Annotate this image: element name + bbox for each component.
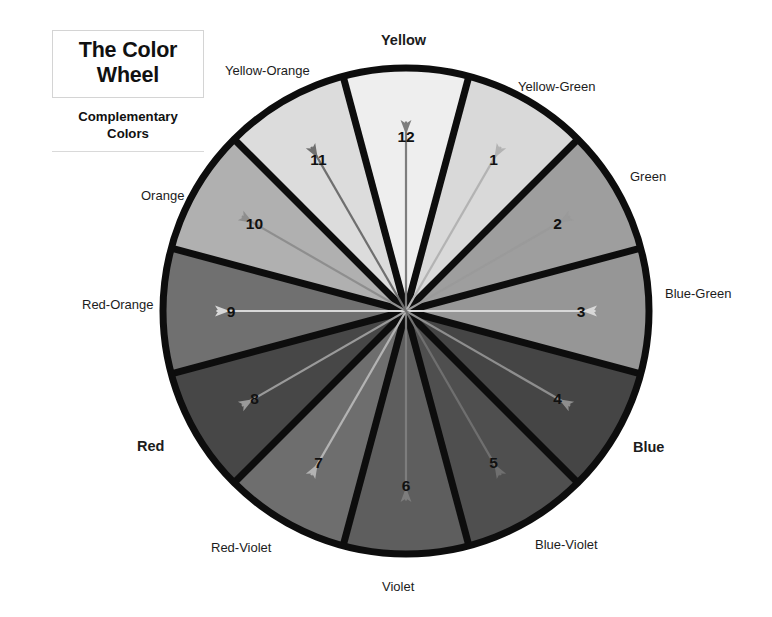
wheel-label-red-violet: Red-Violet xyxy=(211,541,271,554)
segment-number-7: 7 xyxy=(314,454,323,471)
wheel-label-green: Green xyxy=(630,170,666,183)
wheel-label-yellow-green: Yellow-Green xyxy=(518,80,596,93)
segment-number-12: 12 xyxy=(397,128,414,145)
wheel-label-violet: Violet xyxy=(382,580,414,593)
segment-number-11: 11 xyxy=(310,151,327,168)
segment-number-8: 8 xyxy=(250,390,259,407)
segment-number-3: 3 xyxy=(577,303,586,320)
segment-number-10: 10 xyxy=(246,215,263,232)
segment-number-5: 5 xyxy=(489,454,498,471)
segment-number-2: 2 xyxy=(553,215,562,232)
wheel-label-red: Red xyxy=(137,439,164,454)
segment-number-9: 9 xyxy=(227,303,236,320)
wheel-label-blue-green: Blue-Green xyxy=(665,287,731,300)
wheel-label-yellow: Yellow xyxy=(381,33,426,48)
wheel-label-blue: Blue xyxy=(633,440,664,455)
wheel-label-red-orange: Red-Orange xyxy=(82,298,154,311)
wheel-label-orange: Orange xyxy=(141,189,184,202)
segment-number-6: 6 xyxy=(402,477,411,494)
segment-number-4: 4 xyxy=(553,390,562,407)
wheel-label-blue-violet: Blue-Violet xyxy=(535,538,598,551)
segment-number-1: 1 xyxy=(489,151,498,168)
wheel-label-yellow-orange: Yellow-Orange xyxy=(225,64,310,77)
